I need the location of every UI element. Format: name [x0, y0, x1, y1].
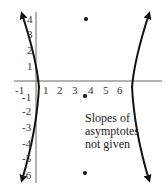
y-tick-1: 1	[27, 61, 33, 72]
note-line-3: not given	[85, 138, 139, 151]
point-top	[84, 17, 88, 21]
y-tick-2: 2	[27, 45, 33, 56]
x-tick-3: 3	[72, 85, 78, 96]
x-tick-1: 1	[43, 85, 49, 96]
y-tick-m2: -2	[22, 106, 31, 117]
x-tick-2: 2	[57, 85, 63, 96]
point-center	[83, 94, 87, 98]
right-branch-curve	[132, 14, 149, 88]
y-tick-m6: -6	[22, 170, 31, 181]
y-tick-m3: -3	[22, 122, 31, 133]
y-tick-m4: -4	[22, 138, 31, 149]
x-tick-6: 6	[117, 85, 123, 96]
y-tick-4: 4	[27, 14, 33, 25]
y-tick-3: 3	[27, 29, 33, 40]
y-tick-m5: -5	[22, 153, 31, 164]
asymptote-note: Slopes of asymptotes not given	[85, 112, 139, 151]
x-tick-4: 4	[88, 85, 94, 96]
x-tick-m1: -1	[15, 85, 24, 96]
x-tick-5: 5	[103, 85, 109, 96]
point-bottom	[83, 171, 87, 175]
